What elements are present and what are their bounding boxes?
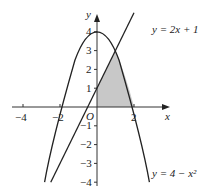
y-tick-label: 1 bbox=[86, 83, 92, 94]
y-tick-label: 2 bbox=[86, 64, 92, 75]
line-equation-label: y = 2x + 1 bbox=[152, 24, 199, 35]
y-tick-label: 4 bbox=[86, 26, 92, 37]
y-axis-label: y bbox=[86, 9, 91, 20]
y-axis-arrow-icon bbox=[94, 14, 100, 22]
x-tick-label: −2 bbox=[52, 112, 64, 123]
x-tick-label: −4 bbox=[15, 112, 27, 123]
x-axis-label: x bbox=[165, 111, 170, 122]
curve-equation-label: y = 4 − x² bbox=[152, 168, 196, 179]
y-tick-label: −2 bbox=[80, 139, 92, 150]
y-tick-label: −4 bbox=[80, 177, 92, 188]
x-tick-label: 2 bbox=[131, 112, 137, 123]
y-tick-label: −1 bbox=[80, 120, 92, 131]
shaded-region bbox=[97, 51, 134, 107]
y-tick-label: 3 bbox=[86, 45, 92, 56]
y-tick-label: −3 bbox=[80, 158, 92, 169]
